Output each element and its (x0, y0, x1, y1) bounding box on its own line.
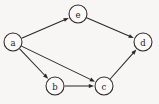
arrowhead-icon (63, 18, 69, 22)
node-label-a: a (10, 38, 15, 48)
node-layer: aedbc (4, 5, 152, 95)
graph-node-d: d (134, 33, 152, 51)
graph-node-e: e (69, 5, 87, 23)
node-label-d: d (140, 38, 146, 48)
graph-edge-c-d (111, 49, 137, 78)
edge-layer (20, 18, 136, 88)
graph-node-c: c (95, 77, 113, 95)
arrowhead-icon (89, 84, 94, 88)
graph-canvas: aedbc (0, 0, 159, 104)
graph-figure: aedbc (0, 0, 159, 104)
graph-node-a: a (4, 33, 22, 51)
node-label-c: c (102, 82, 107, 92)
graph-edge-a-c (22, 46, 95, 81)
graph-edge-e-d (87, 18, 134, 38)
graph-edge-a-b (20, 49, 48, 79)
graph-edge-b-c (65, 84, 94, 88)
arrowhead-icon (128, 34, 134, 38)
node-label-b: b (52, 82, 58, 92)
graph-edge-a-e (22, 18, 69, 38)
arrowhead-icon (89, 78, 95, 82)
node-label-e: e (75, 10, 80, 20)
graph-node-b: b (46, 77, 64, 95)
